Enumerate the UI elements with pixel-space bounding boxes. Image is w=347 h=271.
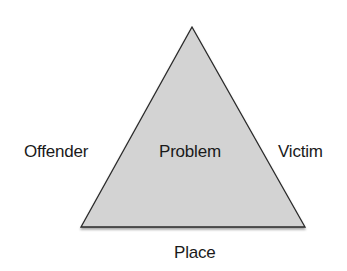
place-label: Place	[174, 244, 216, 261]
offender-label: Offender	[24, 143, 88, 160]
crime-triangle-diagram: Offender Problem Victim Place	[0, 0, 347, 271]
problem-label: Problem	[159, 143, 221, 160]
triangle-polygon	[81, 27, 305, 227]
victim-label: Victim	[278, 143, 323, 160]
triangle-shape	[0, 0, 347, 271]
